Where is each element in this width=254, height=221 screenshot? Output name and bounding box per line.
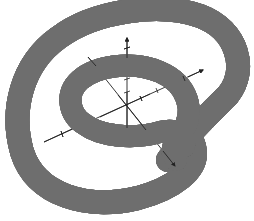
tube-surface — [18, 9, 239, 202]
inner-loop — [70, 66, 188, 160]
x-axis-outer-segment — [44, 129, 72, 142]
tube-knot-diagram — [0, 0, 254, 221]
x-axis-inner-segment — [100, 94, 150, 117]
outer-loop — [18, 9, 239, 202]
x-axis-end-segment — [188, 70, 203, 77]
